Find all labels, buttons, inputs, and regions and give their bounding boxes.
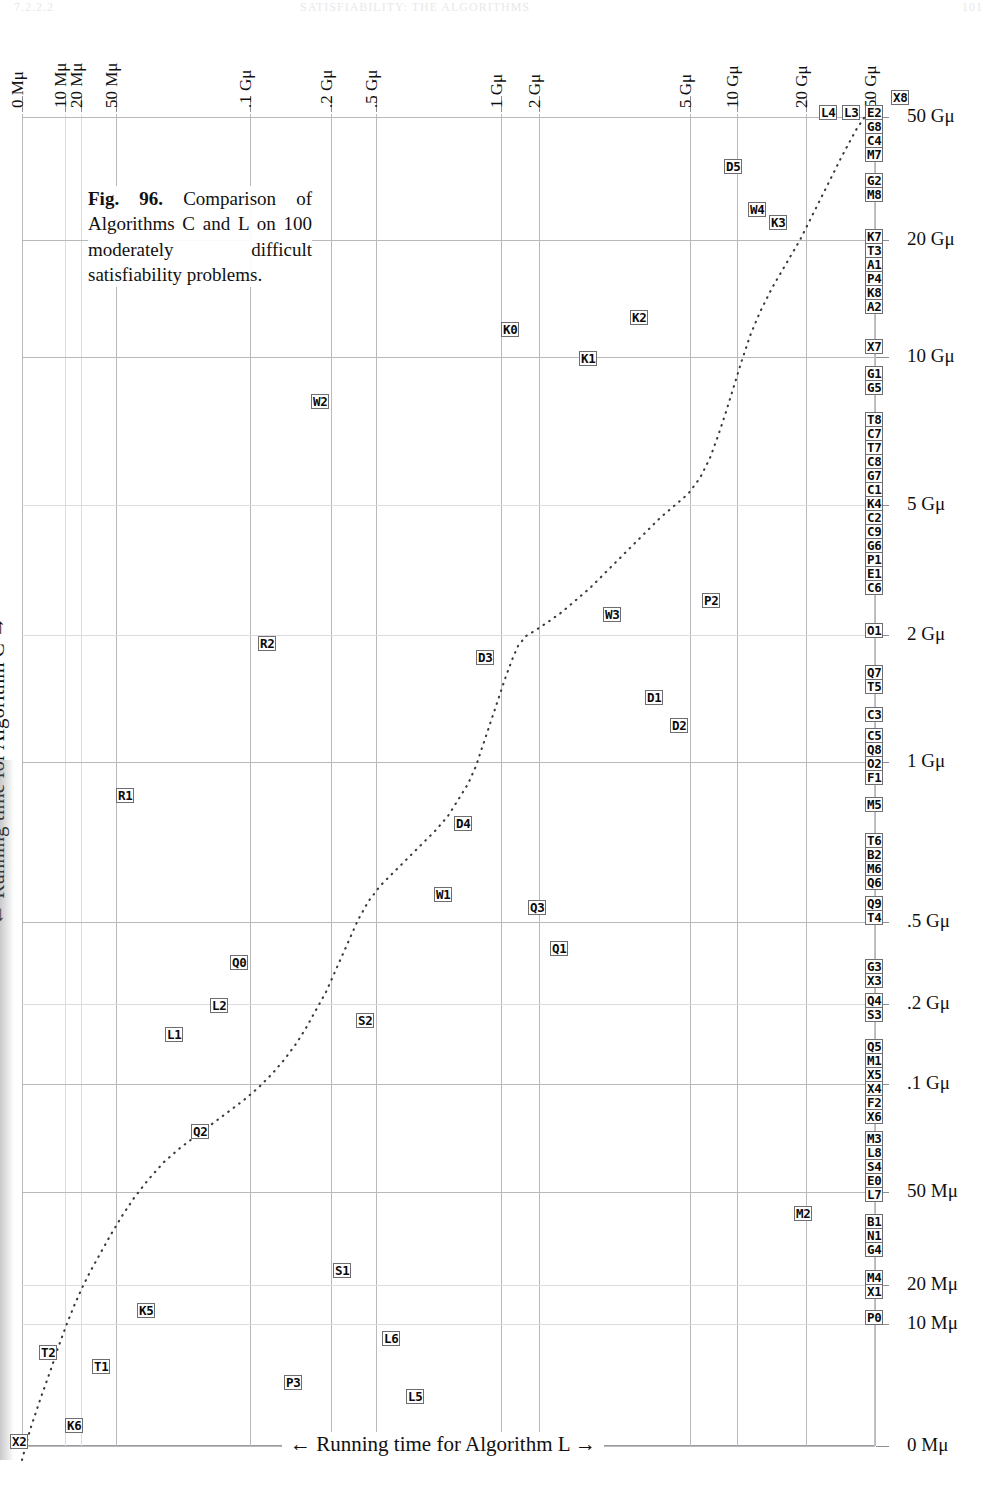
data-point-x3: X3: [865, 973, 883, 988]
data-point-q4: Q4: [865, 993, 883, 1008]
data-point-k2: K2: [630, 310, 648, 325]
data-point-r2: R2: [258, 636, 276, 651]
gridline-horizontal: [22, 1004, 875, 1005]
data-point-k1: K1: [579, 351, 597, 366]
gridline-horizontal: [22, 1324, 875, 1325]
x-axis-tick-label: .2 Gμ: [317, 70, 337, 108]
data-point-d2: D2: [670, 718, 688, 733]
data-point-m7: M7: [865, 147, 883, 162]
data-point-q3: Q3: [528, 900, 546, 915]
data-point-m8: M8: [865, 187, 883, 202]
data-point-l4: L4: [819, 105, 837, 120]
data-point-b1: B1: [865, 1214, 883, 1229]
data-point-g5: G5: [865, 380, 883, 395]
data-point-k7: K7: [865, 229, 883, 244]
data-point-m4: M4: [865, 1270, 883, 1285]
data-point-l2: L2: [210, 998, 228, 1013]
data-point-s2: S2: [356, 1013, 374, 1028]
data-point-k5: K5: [137, 1303, 155, 1318]
gridline-horizontal: [22, 762, 875, 763]
x-axis-tick-label: 10 Gμ: [723, 65, 743, 108]
data-point-t2: T2: [39, 1345, 57, 1360]
gridline-horizontal: [22, 117, 875, 118]
data-point-a1: A1: [865, 257, 883, 272]
data-point-g7: G7: [865, 468, 883, 483]
data-point-q7: Q7: [865, 665, 883, 680]
figure-caption: Fig. 96. Comparison of Algorithms C and …: [88, 186, 312, 287]
header-page-number: 101: [962, 0, 983, 15]
x-axis-tick-label: 0 Mμ: [8, 71, 28, 108]
data-point-d5: D5: [724, 159, 742, 174]
gridline-vertical: [331, 114, 332, 1446]
data-point-x4: X4: [865, 1081, 883, 1096]
data-point-x5: X5: [865, 1067, 883, 1082]
gridline-horizontal: [22, 1084, 875, 1085]
gridline-horizontal: [22, 505, 875, 506]
data-point-p0: P0: [865, 1310, 883, 1325]
data-point-l3: L3: [842, 105, 860, 120]
y-axis-tick-label: 50 Gμ: [907, 105, 955, 127]
data-point-c4: C4: [865, 133, 883, 148]
data-point-g6: G6: [865, 538, 883, 553]
data-point-k0: K0: [501, 322, 519, 337]
data-point-g2: G2: [865, 173, 883, 188]
data-point-t7: T7: [865, 440, 883, 455]
data-point-s1: S1: [333, 1263, 351, 1278]
data-point-q6: Q6: [865, 875, 883, 890]
data-point-l7: L7: [865, 1187, 883, 1202]
data-point-e0: E0: [865, 1173, 883, 1188]
data-point-f2: F2: [865, 1095, 883, 1110]
data-point-l5: L5: [406, 1389, 424, 1404]
data-point-x1: X1: [865, 1284, 883, 1299]
data-point-e2: E2: [865, 105, 883, 120]
gridline-vertical: [81, 114, 82, 1446]
gridline-vertical: [501, 114, 502, 1446]
data-point-m3: M3: [865, 1131, 883, 1146]
x-axis-tick-label: 2 Gμ: [525, 74, 545, 108]
gridline-horizontal: [22, 357, 875, 358]
data-point-g3: G3: [865, 959, 883, 974]
data-point-a2: A2: [865, 299, 883, 314]
data-point-l6: L6: [382, 1331, 400, 1346]
x-axis-tick-label: 20 Gμ: [792, 65, 812, 108]
data-point-p1: P1: [865, 552, 883, 567]
data-point-e1: E1: [865, 566, 883, 581]
data-point-f1: F1: [865, 770, 883, 785]
data-point-x8: X8: [891, 90, 909, 105]
data-point-q2: Q2: [191, 1124, 209, 1139]
x-axis-title: ← Running time for Algorithm L →: [282, 1432, 604, 1457]
x-axis-tick-label: 50 Gμ: [861, 65, 881, 108]
data-point-p2: P2: [702, 593, 720, 608]
y-axis-tick-mark: [876, 1446, 889, 1447]
data-point-w1: W1: [434, 887, 452, 902]
figure-number: Fig. 96.: [88, 188, 163, 209]
data-point-q9: Q9: [865, 896, 883, 911]
y-axis-tick-label: 5 Gμ: [907, 493, 945, 515]
data-point-n1: N1: [865, 1228, 883, 1243]
data-point-c9: C9: [865, 524, 883, 539]
data-point-w4: W4: [748, 202, 766, 217]
y-axis-tick-label: 1 Gμ: [907, 750, 945, 772]
data-point-g4: G4: [865, 1242, 883, 1257]
y-axis-tick-label: 10 Mμ: [907, 1312, 958, 1334]
data-point-t3: T3: [865, 243, 883, 258]
x-axis-tick-label: 1 Gμ: [487, 74, 507, 108]
y-axis-tick-label: 0 Mμ: [907, 1434, 948, 1456]
y-axis-tick-label: .2 Gμ: [907, 992, 950, 1014]
y-axis-tick-label: 2 Gμ: [907, 623, 945, 645]
data-point-d4: D4: [454, 816, 472, 831]
x-axis-tick-label: .5 Gμ: [362, 70, 382, 108]
y-axis-tick-label: 20 Gμ: [907, 228, 955, 250]
data-point-k8: K8: [865, 285, 883, 300]
data-point-m1: M1: [865, 1053, 883, 1068]
data-point-k6: K6: [65, 1418, 83, 1433]
data-point-c6: C6: [865, 580, 883, 595]
gridline-horizontal: [22, 1192, 875, 1193]
data-point-c1: C1: [865, 482, 883, 497]
y-axis-tick-label: 20 Mμ: [907, 1273, 958, 1295]
x-axis-tick-label: 5 Gμ: [676, 74, 696, 108]
scatter-plot-area: [22, 114, 875, 1446]
data-point-d1: D1: [645, 690, 663, 705]
data-point-t1: T1: [92, 1359, 110, 1374]
y-axis-tick-label: 10 Gμ: [907, 345, 955, 367]
